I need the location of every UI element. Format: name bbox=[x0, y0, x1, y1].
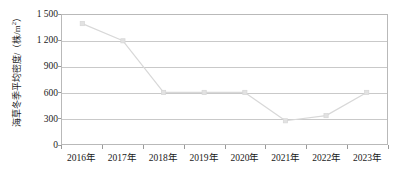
y-axis-tick-label: 1 200 bbox=[16, 35, 58, 45]
x-axis-tick-mark bbox=[306, 145, 307, 149]
data-point-marker bbox=[121, 39, 125, 43]
x-axis-tick-mark bbox=[102, 145, 103, 149]
plot-area bbox=[61, 14, 388, 145]
data-point-marker bbox=[324, 114, 328, 118]
data-point-marker bbox=[283, 119, 287, 123]
x-axis-tick-label: 2023年 bbox=[338, 152, 396, 164]
y-axis-tick-label: 300 bbox=[16, 114, 58, 124]
data-point-marker bbox=[365, 90, 369, 94]
y-axis-tick-label: 0 bbox=[16, 140, 58, 150]
x-axis-tick-mark bbox=[184, 145, 185, 149]
data-point-marker bbox=[243, 90, 247, 94]
x-axis-tick-marks bbox=[61, 145, 388, 150]
x-axis-tick-mark bbox=[347, 145, 348, 149]
data-point-marker bbox=[202, 90, 206, 94]
y-axis-tick-label: 1 500 bbox=[16, 9, 58, 19]
y-axis-tick-label: 900 bbox=[16, 61, 58, 71]
y-axis-tick-label: 600 bbox=[16, 88, 58, 98]
series-seagrass-density bbox=[62, 15, 387, 144]
x-axis-tick-labels: 2016年2017年2018年2019年2020年2021年2022年2023年 bbox=[0, 152, 396, 168]
data-point-marker bbox=[80, 22, 84, 26]
data-point-marker bbox=[161, 90, 165, 94]
x-axis-tick-mark bbox=[61, 145, 62, 149]
seagrass-winter-density-line-chart: 海草冬季平均密度/（株/m2） 03006009001 2001 500 201… bbox=[0, 0, 396, 181]
series-line bbox=[82, 24, 366, 121]
x-axis-tick-mark bbox=[143, 145, 144, 149]
x-axis-tick-mark bbox=[225, 145, 226, 149]
x-axis-tick-mark bbox=[265, 145, 266, 149]
x-axis-tick-mark bbox=[388, 145, 389, 149]
